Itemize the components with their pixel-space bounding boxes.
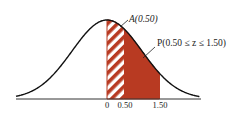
tick-label-0: 0: [105, 100, 109, 110]
normal-curve-diagram: A(0.50) P(0.50 ≤ z ≤ 1.50) 0 0.50 1.50: [0, 0, 240, 122]
region-a-hatched: [107, 20, 125, 99]
label-area-p: P(0.50 ≤ z ≤ 1.50): [157, 38, 226, 49]
leader-line-a: [120, 20, 128, 27]
leader-line-p: [143, 47, 155, 58]
tick-label-1-50: 1.50: [153, 100, 168, 110]
tick-label-0-50: 0.50: [118, 100, 133, 110]
region-p-solid: [125, 29, 160, 99]
label-area-a: A(0.50): [128, 14, 158, 25]
